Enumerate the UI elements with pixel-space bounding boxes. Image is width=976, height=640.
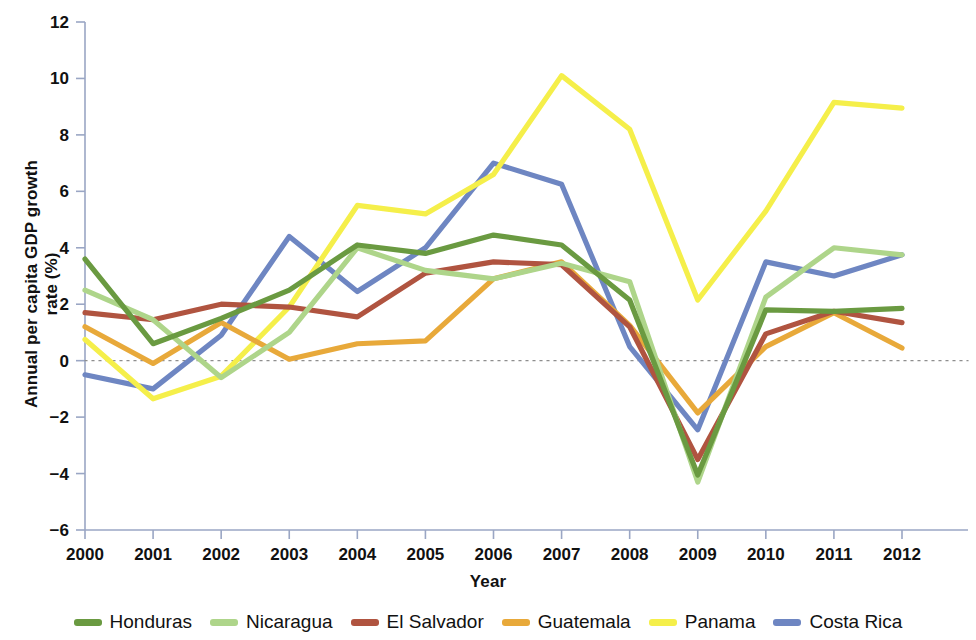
legend-item-label: Nicaragua [246,611,333,633]
legend-item-el-salvador[interactable]: El Salvador [351,611,484,633]
legend-item-guatemala[interactable]: Guatemala [502,611,631,633]
legend-item-label: Guatemala [538,611,631,633]
x-axis-tick-label: 2002 [202,545,240,564]
legend-item-costa-rica[interactable]: Costa Rica [773,611,902,633]
x-axis-tick-label: 2010 [747,545,785,564]
x-axis-title-wrapper: Year [0,572,976,592]
x-axis-tick-label: 2001 [134,545,172,564]
x-axis-title: Year [470,572,506,591]
legend-swatch-icon [502,619,530,626]
series-line-costa-rica [85,163,902,430]
legend-item-nicaragua[interactable]: Nicaragua [210,611,333,633]
legend-swatch-icon [351,619,379,626]
chart-legend: HondurasNicaraguaEl SalvadorGuatemalaPan… [0,604,976,640]
y-axis-title: Annual per capita GDP growth rate (%) [22,160,61,408]
y-axis-tick-label: 12 [50,13,69,32]
legend-swatch-icon [649,619,677,626]
x-axis-tick-label: 2006 [475,545,513,564]
x-axis-tick-label: 2009 [679,545,717,564]
x-axis-tick-label: 2011 [815,545,852,564]
y-axis-tick-label: 10 [50,69,69,88]
y-axis-title-wrapper: Annual per capita GDP growth rate (%) [22,154,62,414]
legend-swatch-icon [74,619,102,626]
legend-swatch-icon [210,619,238,626]
legend-swatch-icon [773,619,801,626]
x-axis-tick-label: 2007 [543,545,581,564]
x-axis-tick-label: 2005 [407,545,445,564]
series-line-honduras [85,235,902,475]
x-axis-tick-label: 2012 [883,545,921,564]
y-axis-tick-label: −6 [50,521,69,540]
legend-item-label: Costa Rica [809,611,902,633]
x-axis-tick-label: 2004 [338,545,376,564]
legend-item-label: Honduras [110,611,192,633]
x-axis-tick-label: 2008 [611,545,649,564]
x-axis-tick-label: 2003 [270,545,308,564]
legend-item-panama[interactable]: Panama [649,611,756,633]
chart-root: −6−4−20246810122000200120022003200420052… [0,0,976,640]
legend-item-label: El Salvador [387,611,484,633]
x-axis-tick-label: 2000 [66,545,104,564]
series-line-nicaragua [85,248,902,482]
y-axis-tick-label: 8 [60,126,69,145]
line-chart: −6−4−20246810122000200120022003200420052… [0,0,976,600]
y-axis-tick-label: −4 [50,465,70,484]
plot-svg: −6−4−20246810122000200120022003200420052… [0,0,976,600]
legend-item-label: Panama [685,611,756,633]
legend-item-honduras[interactable]: Honduras [74,611,192,633]
